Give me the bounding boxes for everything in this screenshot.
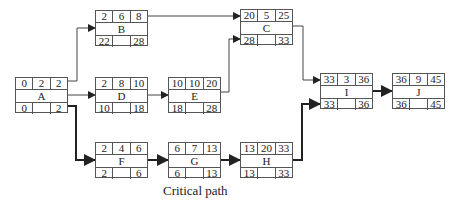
activity-label: D [96, 89, 147, 103]
duration: 7 [186, 143, 203, 154]
duration: 2 [33, 78, 50, 89]
early-start: 2 [96, 78, 113, 89]
duration: 20 [258, 143, 275, 154]
early-finish: 6 [131, 143, 147, 154]
duration: 4 [113, 143, 130, 154]
early-start: 0 [16, 78, 33, 89]
slack [33, 103, 50, 114]
early-start: 33 [321, 74, 338, 85]
node-b: 268 B 2228 [95, 10, 148, 46]
activity-label: G [169, 154, 220, 168]
early-start: 10 [169, 78, 186, 89]
node-d: 2810 D 1018 [95, 77, 148, 113]
early-finish: 25 [276, 10, 292, 21]
activity-label: H [241, 154, 292, 168]
activity-label: B [96, 22, 147, 36]
duration: 5 [258, 10, 275, 21]
early-start: 6 [169, 143, 186, 154]
late-start: 0 [16, 103, 33, 114]
late-start: 22 [96, 36, 113, 47]
activity-label: C [241, 21, 292, 35]
early-finish: 10 [131, 78, 147, 89]
late-finish: 28 [131, 36, 147, 47]
node-c: 20525 C 2833 [240, 9, 293, 45]
late-finish: 13 [204, 168, 220, 179]
early-start: 2 [96, 143, 113, 154]
late-start: 18 [169, 103, 186, 114]
late-start: 13 [241, 168, 258, 179]
slack [113, 168, 130, 179]
early-finish: 2 [51, 78, 67, 89]
slack [258, 168, 275, 179]
early-start: 2 [96, 11, 113, 22]
late-finish: 45 [428, 99, 444, 110]
duration: 3 [338, 74, 355, 85]
late-start: 28 [241, 35, 258, 46]
early-start: 13 [241, 143, 258, 154]
activity-label: A [16, 89, 67, 103]
late-start: 2 [96, 168, 113, 179]
duration: 9 [410, 74, 427, 85]
node-f: 246 F 26 [95, 142, 148, 178]
node-g: 6713 G 613 [168, 142, 221, 178]
node-j: 36945 J 3645 [392, 73, 445, 109]
late-finish: 6 [131, 168, 147, 179]
late-finish: 33 [276, 35, 292, 46]
early-start: 20 [241, 10, 258, 21]
activity-label: F [96, 154, 147, 168]
slack [410, 99, 427, 110]
node-h: 132033 H 1333 [240, 142, 293, 178]
late-start: 6 [169, 168, 186, 179]
edge-e-c [221, 39, 240, 92]
edge-a-b [68, 28, 95, 81]
edge-a-f [68, 106, 95, 160]
early-finish: 8 [131, 11, 147, 22]
late-start: 33 [321, 99, 338, 110]
activity-label: E [169, 89, 220, 103]
late-finish: 36 [356, 99, 372, 110]
late-start: 36 [393, 99, 410, 110]
early-finish: 33 [276, 143, 292, 154]
late-finish: 2 [51, 103, 67, 114]
slack [338, 99, 355, 110]
early-finish: 36 [356, 74, 372, 85]
edge-c-i [293, 26, 320, 80]
critical-path-caption: Critical path [163, 183, 228, 199]
node-a: 022 A 02 [15, 77, 68, 113]
duration: 8 [113, 78, 130, 89]
early-finish: 45 [428, 74, 444, 85]
edge-h-i [293, 104, 320, 160]
slack [186, 168, 203, 179]
slack [113, 103, 130, 114]
late-finish: 33 [276, 168, 292, 179]
slack [258, 35, 275, 46]
late-start: 10 [96, 103, 113, 114]
node-i: 33336 I 3336 [320, 73, 373, 109]
late-finish: 28 [204, 103, 220, 114]
early-finish: 13 [204, 143, 220, 154]
node-e: 101020 E 1828 [168, 77, 221, 113]
duration: 6 [113, 11, 130, 22]
late-finish: 18 [131, 103, 147, 114]
slack [186, 103, 203, 114]
early-finish: 20 [204, 78, 220, 89]
early-start: 36 [393, 74, 410, 85]
slack [113, 36, 130, 47]
activity-label: I [321, 85, 372, 99]
activity-label: J [393, 85, 444, 99]
duration: 10 [186, 78, 203, 89]
